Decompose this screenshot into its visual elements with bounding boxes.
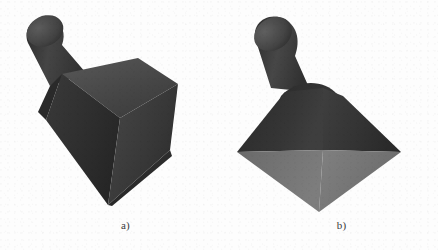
- face-b-left: [237, 88, 323, 152]
- subfigure-a: [0, 0, 219, 215]
- shape-a-rendering: [0, 0, 219, 215]
- face-b-base-left: [237, 150, 323, 212]
- knob-b: [248, 10, 311, 92]
- face-b-right: [323, 88, 401, 152]
- caption-subfigure-a: a): [16, 219, 235, 231]
- pyramid-b: [237, 83, 401, 212]
- pyramid-a: [38, 58, 178, 206]
- shape-b-rendering: [219, 0, 438, 215]
- figure-panel: a) b): [0, 0, 438, 250]
- face-b-base-right: [319, 150, 401, 212]
- subfigure-b: [219, 0, 438, 215]
- caption-subfigure-b: b): [232, 219, 438, 231]
